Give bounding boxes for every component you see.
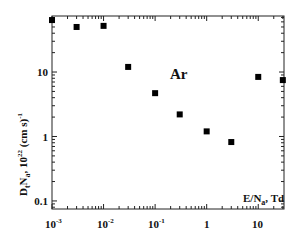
data-point bbox=[177, 111, 183, 117]
data-point bbox=[255, 74, 261, 80]
x-tick-labels: 10-3 10-2 10-1 1 10 bbox=[45, 217, 264, 230]
data-point bbox=[204, 128, 210, 134]
x-axis-label: E/Na, Td bbox=[243, 192, 284, 207]
x-tick-label: 10-3 bbox=[45, 217, 62, 230]
chart: Ar 10-3 10-2 10-1 1 10 0.1 1 10 E/Na, Td… bbox=[0, 0, 298, 237]
data-point bbox=[101, 23, 107, 29]
data-point bbox=[74, 24, 80, 30]
y-tick-label: 0.1 bbox=[34, 195, 48, 207]
axis-ticks bbox=[52, 16, 284, 209]
annotation-ar: Ar bbox=[170, 66, 188, 82]
plot-frame bbox=[52, 16, 284, 209]
y-tick-labels: 0.1 1 10 bbox=[34, 66, 48, 207]
data-point bbox=[49, 17, 55, 23]
x-tick-label: 10-2 bbox=[97, 217, 114, 230]
data-points bbox=[49, 17, 286, 145]
y-tick-label: 1 bbox=[43, 131, 49, 143]
x-tick-label: 10-1 bbox=[148, 217, 165, 230]
data-point bbox=[228, 139, 234, 145]
x-tick-label: 1 bbox=[204, 218, 210, 230]
y-axis-label: DtNa, 1022 (cm s)-1 bbox=[16, 112, 32, 196]
x-tick-label: 10 bbox=[252, 218, 264, 230]
data-point bbox=[280, 77, 286, 83]
data-point bbox=[125, 64, 131, 70]
data-point bbox=[152, 90, 158, 96]
y-tick-label: 10 bbox=[37, 66, 49, 78]
